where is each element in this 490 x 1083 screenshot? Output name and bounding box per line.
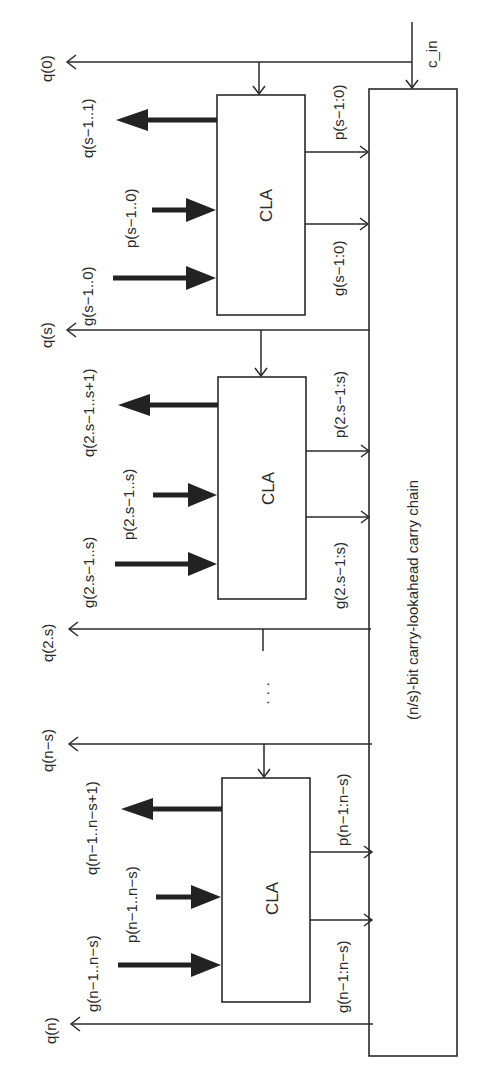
cla-block-3-label: CLA [263, 881, 282, 915]
cla2-output-label: q(2.s−1..s+1) [80, 369, 97, 457]
cla-block-2-label: CLA [259, 471, 278, 505]
cla1-p-to-chain-label: p(s−1:0) [330, 85, 347, 140]
cla3-p-arrowhead-icon [191, 885, 221, 909]
cla1-g-to-chain-label: g(s−1:0) [330, 241, 347, 296]
cla2-p-arrowhead-icon [188, 483, 217, 507]
q2s-label: q(2.s) [39, 624, 56, 662]
cla2-output-arrowhead-icon [118, 394, 150, 416]
cla3-output-label: q(n−1..n−s+1) [83, 781, 100, 875]
cla1-output-label: q(s−1..1) [79, 98, 96, 158]
cla2-g-to-chain-label: g(2.s−1:s) [331, 542, 348, 609]
cla1-g-arrowhead-icon [186, 266, 216, 290]
cla1-p-arrowhead-icon [186, 198, 216, 222]
cla3-p-input-label: p(n−1..n−s) [123, 866, 140, 943]
c-in-label: c_in [423, 40, 440, 68]
cla3-g-input-label: g(n−1..n−s) [84, 935, 101, 1012]
cla3-g-to-chain-label: g(n−1:n−s) [334, 940, 351, 1013]
qns-label: q(n−s) [39, 729, 56, 772]
ellipsis: · · · [258, 682, 275, 705]
carry-lookahead-diagram: (n/s)-bit carry-lookahead carry chain c_… [0, 0, 490, 1083]
qn-label: q(n) [42, 1017, 59, 1044]
cla1-p-input-label: p(s−1..0) [122, 188, 139, 248]
cla2-g-input-label: g(2.s−1..s) [80, 537, 97, 608]
cla1-output-arrowhead-icon [116, 109, 148, 131]
cla3-output-arrowhead-icon [121, 798, 153, 820]
q0-label: q(0) [38, 55, 55, 82]
cla2-p-to-chain-label: p(2.s−1:s) [331, 371, 348, 438]
cla-block-1-label: CLA [257, 188, 276, 222]
qs-label: q(s) [38, 322, 55, 348]
carry-chain-label: (n/s)-bit carry-lookahead carry chain [404, 480, 421, 720]
cla3-p-to-chain-label: p(n−1:n−s) [334, 773, 351, 846]
cla1-g-input-label: g(s−1..0) [79, 266, 96, 326]
cla2-g-arrowhead-icon [188, 552, 217, 576]
cla2-p-input-label: p(2.s−1..s) [120, 469, 137, 540]
cla3-g-arrowhead-icon [191, 953, 221, 977]
